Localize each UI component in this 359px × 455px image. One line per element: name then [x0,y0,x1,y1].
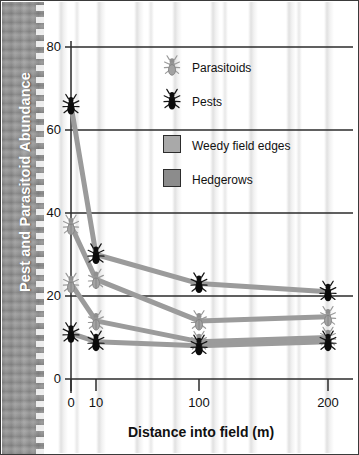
chart-legend: Parasitoids Pests [161,51,331,197]
x-axis-title: Distance into field (m) [44,424,358,440]
y-tick-label-60: 60 [35,122,61,137]
dark-gray-swatch-icon [161,169,183,191]
legend-label-pests: Pests [192,95,222,109]
chart-figure: Pest and Parasitoid Abundance [0,0,359,455]
series-line-parasitoids-weedy [71,225,328,320]
x-tick-label-200: 200 [308,395,348,410]
legend-item-hedgerows: Hedgerows [161,163,331,197]
gray-beetle-icon [161,53,183,83]
y-tick-label-80: 80 [35,39,61,54]
x-tick-label-100: 100 [179,395,219,410]
legend-label-weedy-field-edges: Weedy field edges [192,139,291,153]
legend-item-pests: Pests [161,85,331,119]
legend-item-parasitoids: Parasitoids [161,51,331,85]
x-tick-label-10: 10 [76,395,116,410]
x-axis-ticks [71,379,328,391]
y-tick-label-40: 40 [35,205,61,220]
y-tick-label-20: 20 [35,288,61,303]
legend-label-hedgerows: Hedgerows [192,173,253,187]
legend-item-weedy-field-edges: Weedy field edges [161,129,331,163]
black-beetle-icon [161,87,183,117]
y-tick-label-0: 0 [35,371,61,386]
legend-label-parasitoids: Parasitoids [192,61,251,75]
light-gray-swatch-icon [161,135,183,157]
